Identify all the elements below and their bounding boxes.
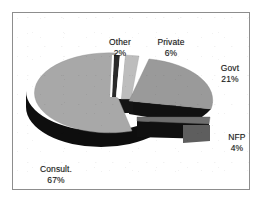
slice-label-nfp: NFP 4% (219, 132, 255, 153)
slice-label-other-name: Other (99, 37, 141, 48)
slice-label-consult-value: 67% (27, 175, 85, 186)
slice-label-consult-name: Consult. (27, 164, 85, 175)
slice-label-private-name: Private (147, 37, 195, 48)
slice-label-consult: Consult. 67% (27, 164, 85, 185)
chart-frame: Other 2% Private 6% Govt 21% NFP 4% Cons… (12, 12, 250, 190)
slice-label-private-value: 6% (147, 48, 195, 59)
slice-label-govt-name: Govt (209, 63, 251, 74)
slice-top-govt (129, 59, 213, 109)
slice-label-nfp-value: 4% (219, 143, 255, 154)
slice-label-private: Private 6% (147, 37, 195, 58)
slice-label-other-value: 2% (99, 48, 141, 59)
slice-label-govt: Govt 21% (209, 63, 251, 84)
slice-label-govt-value: 21% (209, 74, 251, 85)
slice-label-other: Other 2% (99, 37, 141, 58)
slice-label-nfp-name: NFP (219, 132, 255, 143)
slice-body-nfp (183, 125, 210, 143)
pie-chart-screenshot: Other 2% Private 6% Govt 21% NFP 4% Cons… (0, 0, 264, 204)
